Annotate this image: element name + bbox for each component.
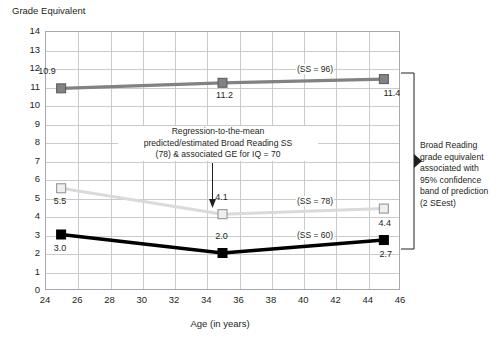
x-axis-tick-label: 26 [62,294,92,305]
x-axis-tick-label: 30 [127,294,157,305]
series-label-ss96: (SS = 96) [296,64,334,74]
x-axis-tick-labels: 242628303234363840424446 [45,294,401,308]
series-label-ss60: (SS = 60) [296,230,334,240]
y-axis-tick-label: 4 [10,211,40,221]
regression-annotation: Regression-to-the-mean predicted/estimat… [118,126,318,161]
y-axis-tick-label: 1 [10,267,40,277]
confidence-band-caption-line-3: associated with [420,163,498,175]
y-axis-tick-label: 2 [10,248,40,258]
data-point-label-ss60_p1: 3.0 [40,243,80,253]
x-axis-tick-label: 32 [159,294,189,305]
data-point-label-ss78_p3: 4.4 [365,218,405,228]
regression-annotation-line-2: predicted/estimated Broad Reading SS [118,138,318,150]
data-point-label-ss78_p1: 5.5 [40,196,80,206]
confidence-band-caption-line-4: 95% confidence [420,175,498,187]
data-point-label-ss96_p1: 10.9 [27,66,67,76]
confidence-band-caption-line-5: band of prediction [420,186,498,198]
data-point-marker [379,236,388,245]
data-series-layer [45,31,400,290]
x-axis-title: Age (in years) [0,318,440,329]
data-point-marker [379,75,388,84]
y-axis-tick-label: 6 [10,174,40,184]
y-axis-tick-label: 3 [10,230,40,240]
series-label-ss78: (SS = 78) [296,196,334,206]
data-point-label-ss96_p2: 11.2 [205,90,245,100]
y-axis-tick-label: 11 [10,82,40,92]
x-axis-tick-label: 40 [288,294,318,305]
data-point-marker [218,210,227,219]
x-axis-tick-label: 46 [385,294,415,305]
x-axis-tick-label: 38 [256,294,286,305]
x-axis-tick-label: 36 [224,294,254,305]
data-point-marker [57,84,66,93]
y-axis-tick-label: 5 [10,193,40,203]
y-axis-tick-label: 7 [10,156,40,166]
data-point-marker [218,78,227,87]
annotation-down-arrow-icon [208,163,217,209]
y-axis-tick-label: 14 [10,26,40,36]
x-axis-tick-label: 34 [191,294,221,305]
confidence-band-caption-line-6: (2 SEest) [420,198,498,210]
x-axis-tick-label: 24 [30,294,60,305]
y-axis-tick-label: 8 [10,137,40,147]
y-axis-tick-labels: 01234567891011121314 [8,0,40,342]
x-axis-tick-label: 44 [353,294,383,305]
confidence-band-caption: Broad Reading grade equivalent associate… [420,140,498,209]
regression-annotation-line-3: (78) & associated GE for IQ = 70 [118,149,318,161]
data-point-marker [57,230,66,239]
confidence-band-caption-line-1: Broad Reading [420,140,498,152]
data-point-marker [57,184,66,193]
y-axis-tick-label: 10 [10,100,40,110]
y-axis-tick-label: 9 [10,119,40,129]
confidence-band-caption-line-2: grade equivalent [420,152,498,164]
x-axis-tick-label: 42 [320,294,350,305]
data-point-label-ss60_p2: 2.0 [202,231,242,241]
data-point-marker [379,204,388,213]
confidence-band-bracket-icon [400,72,422,250]
y-axis-tick-label: 13 [10,45,40,55]
data-point-marker [218,249,227,258]
x-axis-tick-label: 28 [95,294,125,305]
regression-annotation-line-1: Regression-to-the-mean [118,126,318,138]
data-point-label-ss60_p3: 2.7 [366,249,406,259]
